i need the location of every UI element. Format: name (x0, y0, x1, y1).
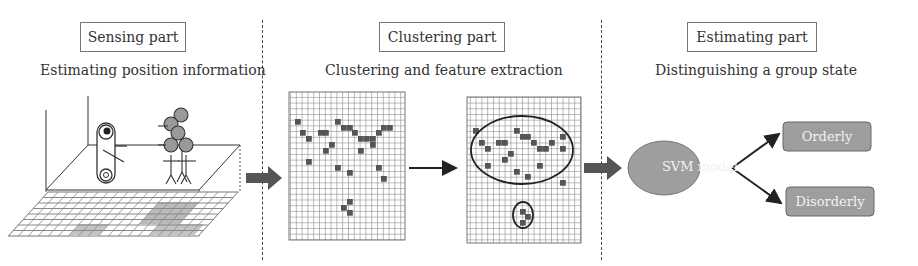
flow-arrow-1 (246, 166, 282, 190)
occupancy-grid-clustered (467, 97, 581, 243)
occupancy-grid-raw (289, 92, 405, 240)
disorderly-label: Disorderly (786, 194, 874, 209)
flow-arrow-3 (584, 156, 622, 180)
floor-grid (8, 192, 238, 236)
orderly-label: Orderly (783, 129, 871, 144)
diagram-canvas (0, 0, 918, 266)
svm-model-label: SVM model (628, 159, 772, 174)
sensing-scene (8, 96, 240, 236)
